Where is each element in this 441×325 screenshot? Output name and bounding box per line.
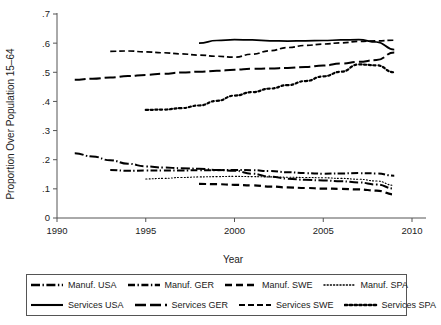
legend-row: Services USA Services GER Services SWE S… [27,295,406,315]
y-tick-label: .1 [42,183,50,194]
series-line-services-swe [110,40,394,57]
legend-item-services-ger[interactable]: Services GER [134,300,239,310]
legend-swatch-services-spa-icon [344,300,378,310]
x-tick-label: 1995 [135,225,156,236]
legend-label: Manuf. SWE [262,280,313,290]
series-line-manuf-usa [75,153,395,188]
legend-item-services-swe[interactable]: Services SWE [238,300,344,310]
chart-canvas: 0.1.2.3.4.5.6.7 19901995200020052010 Pro… [0,0,435,268]
y-tick-label: .5 [42,67,50,78]
y-tick-label: .3 [42,125,50,136]
y-axis: 0.1.2.3.4.5.6.7 [42,8,57,223]
legend-label: Services USA [68,300,124,310]
y-tick-label: .7 [42,8,50,19]
legend-swatch-manuf-swe-icon [224,280,258,290]
x-axis: 19901995200020052010 [46,218,426,236]
legend-swatch-manuf-ger-icon [127,280,161,290]
legend-swatch-services-swe-icon [238,300,272,310]
x-tick-label: 1990 [46,225,67,236]
x-tick-label: 2000 [224,225,245,236]
legend-label: Services SPA [382,300,436,310]
legend-item-manuf-spa[interactable]: Manuf. SPA [323,280,418,290]
y-tick-label: 0 [45,212,50,223]
legend-item-manuf-ger[interactable]: Manuf. GER [127,280,225,290]
series-line-manuf-ger [110,170,394,176]
legend-label: Services GER [172,300,229,310]
y-tick-label: .2 [42,154,50,165]
legend-item-services-spa[interactable]: Services SPA [344,300,441,310]
legend-swatch-services-ger-icon [134,300,168,310]
data-series-group [75,40,395,195]
x-axis-title: Year [223,254,244,265]
series-line-services-ger [75,52,395,79]
series-line-services-spa [146,64,395,109]
legend-item-manuf-swe[interactable]: Manuf. SWE [224,280,323,290]
y-axis-title: Proportion Over Population 15–64 [5,48,16,200]
legend-label: Manuf. SPA [361,280,408,290]
y-tick-label: .6 [42,38,50,49]
legend-item-manuf-usa[interactable]: Manuf. USA [30,280,127,290]
x-tick-label: 2010 [401,225,422,236]
legend-item-services-usa[interactable]: Services USA [30,300,134,310]
plot-area: 0.1.2.3.4.5.6.7 19901995200020052010 Pro… [0,0,435,268]
legend-row: Manuf. USA Manuf. GER Manuf. SWE Manuf. … [27,275,406,295]
series-line-manuf-swe [199,184,394,194]
legend-label: Manuf. GER [165,280,215,290]
series-line-manuf-spa [146,176,395,185]
x-tick-label: 2005 [313,225,334,236]
legend-label: Services SWE [276,300,334,310]
legend-swatch-services-usa-icon [30,300,64,310]
legend-swatch-manuf-spa-icon [323,280,357,290]
legend-swatch-manuf-usa-icon [30,280,64,290]
legend-label: Manuf. USA [68,280,117,290]
y-tick-label: .4 [42,96,50,107]
chart-legend: Manuf. USA Manuf. GER Manuf. SWE Manuf. … [26,274,407,316]
